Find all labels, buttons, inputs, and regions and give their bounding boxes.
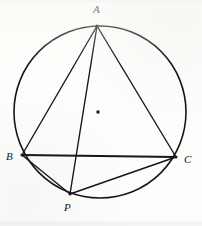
- vertex-point-c: [175, 156, 178, 159]
- circle-center-dot: [97, 111, 100, 114]
- vertex-point-a: [96, 25, 99, 28]
- segment-AC: [97, 26, 176, 157]
- vertex-point-b: [21, 154, 24, 157]
- vertex-label-a: A: [93, 4, 100, 15]
- vertex-label-b: B: [6, 151, 13, 162]
- geometry-canvas: [0, 0, 202, 226]
- vertex-dots-group: [21, 25, 178, 196]
- segment-PC: [70, 157, 176, 194]
- vertex-point-p: [69, 193, 72, 196]
- vertex-label-p: P: [64, 202, 71, 213]
- circumscribed-circle: [14, 26, 186, 198]
- segment-BP: [22, 155, 70, 194]
- segment-BC: [22, 155, 176, 157]
- segment-AB: [22, 26, 97, 155]
- segment-AP: [70, 26, 97, 194]
- segments-group: [22, 26, 176, 194]
- vertex-label-c: C: [184, 154, 191, 165]
- geometry-figure: ABCP: [0, 0, 202, 226]
